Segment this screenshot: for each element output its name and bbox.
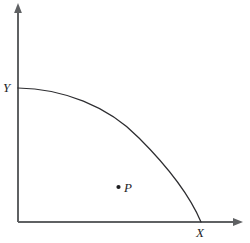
diagram-svg	[0, 0, 250, 243]
point-p-marker	[116, 185, 120, 189]
figure-canvas: Y X P	[0, 0, 250, 243]
x-axis-label: X	[196, 226, 204, 239]
frontier-curve	[18, 88, 201, 222]
x-axis-arrowhead-icon	[233, 218, 243, 226]
y-axis-arrowhead-icon	[14, 3, 22, 13]
y-axis-label: Y	[3, 81, 10, 94]
point-p-label: P	[124, 181, 132, 194]
